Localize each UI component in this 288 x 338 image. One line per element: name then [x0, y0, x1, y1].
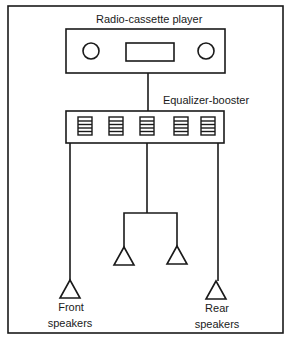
rear-speakers-label-line1: Rear	[190, 301, 244, 315]
diagram-frame	[8, 6, 283, 333]
front-speaker-icon	[60, 280, 80, 298]
equalizer-label: Equalizer-booster	[156, 93, 256, 107]
left-knob-icon	[83, 43, 99, 59]
wiring-diagram	[0, 0, 288, 338]
slider-icon	[140, 117, 154, 135]
radio-cassette-label: Radio-cassette player	[96, 12, 196, 26]
cassette-window	[126, 43, 174, 61]
center-left-speaker-icon	[114, 247, 134, 265]
slider-icon	[201, 117, 215, 135]
slider-icon	[78, 117, 92, 135]
right-knob-icon	[198, 43, 214, 59]
center-right-speaker-icon	[167, 246, 187, 264]
rear-speakers-label-line2: speakers	[187, 317, 247, 331]
slider-icon	[174, 117, 188, 135]
center-speaker-branch	[124, 213, 177, 247]
rear-speaker-icon	[206, 281, 226, 299]
radio-cassette-player	[66, 29, 225, 73]
equalizer-sliders	[78, 117, 215, 135]
slider-icon	[109, 117, 123, 135]
front-speakers-label-line1: Front	[44, 300, 98, 314]
front-speakers-label-line2: speakers	[40, 316, 100, 330]
